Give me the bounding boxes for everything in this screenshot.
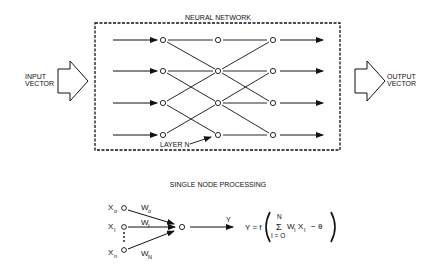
single-node-inputs: X o X I X n	[108, 203, 126, 259]
svg-text:o: o	[148, 208, 151, 214]
svg-text:I = O: I = O	[271, 232, 285, 239]
neural-network-diagram: NEURAL NETWORK INPUT VECTOR OUTPUT VECTO…	[0, 0, 439, 275]
output-label-2: VECTOR	[387, 80, 416, 87]
output-arrows	[280, 40, 323, 135]
weight-arrows	[128, 210, 175, 249]
connections	[167, 40, 269, 135]
single-node-title: SINGLE NODE PROCESSING	[170, 181, 266, 188]
svg-text:n: n	[114, 253, 117, 259]
node	[160, 37, 165, 42]
input-arrows	[113, 40, 157, 135]
network-title: NEURAL NETWORK	[185, 14, 251, 21]
node	[160, 132, 165, 137]
svg-text:I: I	[114, 227, 116, 233]
layer-label: LAYER N	[160, 141, 189, 148]
output-y-label: Y	[226, 216, 231, 223]
node	[270, 132, 275, 137]
activation-formula: Y = f N Σ I = O W I X I − θ	[245, 212, 335, 242]
summing-node	[179, 224, 184, 229]
node	[215, 37, 220, 42]
node	[270, 100, 275, 105]
svg-text:− θ: − θ	[311, 222, 323, 231]
node	[215, 100, 220, 105]
output-label-1: OUTPUT	[387, 73, 417, 80]
node	[270, 37, 275, 42]
input-arrow-icon	[58, 61, 88, 101]
input-label-2: VECTOR	[25, 80, 54, 87]
node	[215, 132, 220, 137]
node	[160, 68, 165, 73]
output-arrow-icon	[355, 61, 385, 101]
svg-text:I: I	[148, 223, 150, 229]
svg-text:I: I	[294, 227, 296, 233]
svg-text:I: I	[304, 227, 306, 233]
svg-text:o: o	[114, 208, 117, 214]
node	[215, 68, 220, 73]
node	[160, 100, 165, 105]
weight-labels: W o W I W N	[141, 203, 152, 260]
svg-text:N: N	[277, 213, 282, 220]
network-nodes	[160, 37, 275, 137]
svg-text:Y = f: Y = f	[245, 223, 262, 232]
svg-text:N: N	[148, 254, 152, 260]
node	[270, 68, 275, 73]
svg-text:Σ: Σ	[276, 222, 282, 232]
input-label-1: INPUT	[25, 73, 47, 80]
layer-pointer-arrow	[190, 137, 211, 144]
